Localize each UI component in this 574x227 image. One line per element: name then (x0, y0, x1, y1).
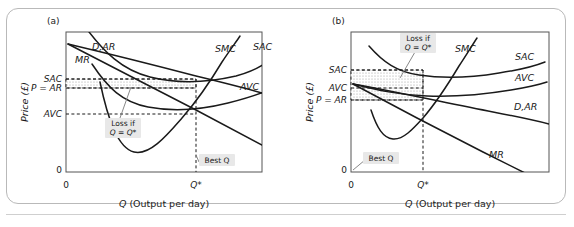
panel-a-label-short-run-marginal-cost: SMC (215, 43, 236, 54)
panel-b-loss-callout-line2: Q = Q* (405, 43, 432, 52)
panel-a-label-short-run-average-cost: SAC (253, 41, 273, 52)
panel-a-curve-marginal-revenue (68, 44, 272, 151)
panel-b-y-axis-title: Price (£) (304, 82, 315, 122)
panel-b-label-short-run-average-cost: SAC (515, 51, 535, 62)
panel-a-plot: (a) Price (£) (0, 0, 287, 227)
panel-b: (b) Price (£) SMC (287, 0, 574, 227)
panel-a-bestq-callout-label: Best Q (205, 156, 230, 165)
panel-b-tag: (b) (332, 16, 345, 26)
panel-b-x-axis-title: Q (Output per day) (405, 198, 495, 209)
panel-b-plot: (b) Price (£) SMC (287, 0, 574, 227)
panel-a-xtick-qstar: Q* (190, 180, 202, 190)
figure-container: (a) Price (£) (0, 0, 574, 227)
panel-a-loss-leader (120, 87, 131, 118)
panel-a-y-axis-title: Price (£) (19, 82, 30, 122)
panel-b-origin-x: 0 (348, 180, 354, 190)
panel-b-ytick-avc: AVC (328, 83, 348, 93)
panel-b-ytick-sac: SAC (329, 65, 348, 75)
panel-a-tag: (a) (47, 16, 60, 26)
panel-b-origin-y: 0 (341, 165, 347, 175)
panel-a-label-demand-avg-revenue: D,AR (92, 41, 115, 52)
panel-b-bestq-callout-label: Best Q (369, 154, 394, 163)
panel-b-label-marginal-revenue: MR (489, 149, 504, 160)
panel-b-label-demand-avg-revenue: D,AR (514, 101, 537, 112)
panel-b-ytick-price: P = AR (316, 95, 347, 105)
panel-b-label-short-run-marginal-cost: SMC (455, 43, 476, 54)
panel-a-label-marginal-revenue: MR (75, 54, 90, 65)
panel-a-loss-callout-line2: Q = Q* (110, 128, 137, 137)
panel-a-ytick-avc: AVC (43, 109, 63, 119)
panel-a-loss-area (66, 79, 196, 88)
panel-a-ytick-price: P = AR (31, 83, 62, 93)
panel-a-origin-x: 0 (63, 180, 69, 190)
panel-b-label-average-variable-cost: AVC (514, 72, 535, 83)
panel-a-label-average-variable-cost: AVC (239, 81, 260, 92)
panel-a-loss-callout-line1: Loss if (111, 119, 135, 128)
panel-b-loss-callout-line1: Loss if (406, 34, 430, 43)
panel-a-origin-y: 0 (56, 165, 62, 175)
panel-a: (a) Price (£) (0, 0, 287, 227)
panel-b-xtick-qstar: Q* (417, 180, 429, 190)
panel-a-x-axis-title: Q (Output per day) (119, 198, 209, 209)
